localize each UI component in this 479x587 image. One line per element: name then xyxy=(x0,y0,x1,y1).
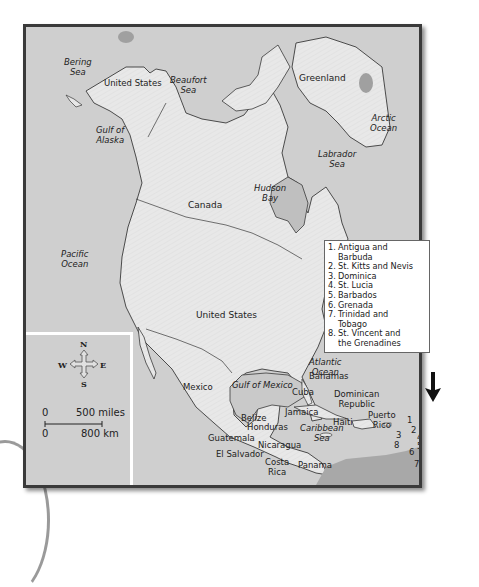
legend-text: Trinidad andTobago xyxy=(338,310,388,329)
compass-west: W xyxy=(58,360,67,370)
label-line: Pacific xyxy=(61,249,89,259)
legend-line: the Grenadines xyxy=(338,338,401,348)
label-hudson-bay: Hudson Bay xyxy=(254,183,286,203)
legend-num: 8. xyxy=(328,329,338,348)
label-line: Sea xyxy=(64,67,92,77)
compass-south: S xyxy=(81,379,87,389)
label-jamaica: Jamaica xyxy=(285,407,318,417)
label-mexico: Mexico xyxy=(183,382,213,392)
legend-line: Antigua and xyxy=(338,242,388,252)
label-line: Ocean xyxy=(370,123,397,133)
land-aleutians xyxy=(66,95,82,107)
label-arctic-ocean: Arctic Ocean xyxy=(370,113,397,133)
island-number-3: 3 xyxy=(396,430,401,440)
legend-line: Trinidad and xyxy=(338,309,388,319)
label-pacific-ocean: Pacific Ocean xyxy=(61,249,89,269)
island-number-7: 7 xyxy=(414,459,419,469)
label-line: Hudson xyxy=(254,183,286,193)
compass-east: E xyxy=(100,360,106,370)
island-number-2: 2 xyxy=(411,425,416,435)
land-arctic-blob xyxy=(359,73,373,93)
label-line: Gulf of xyxy=(96,125,124,135)
scale-km-zero: 0 xyxy=(42,428,48,439)
label-beaufort-sea: Beaufort Sea xyxy=(170,75,207,95)
label-labrador-sea: Labrador Sea xyxy=(318,149,356,169)
label-line: Dominican xyxy=(334,389,379,399)
label-line: Puerto xyxy=(368,410,396,420)
label-line: Arctic xyxy=(370,113,397,123)
label-dominican-republic: Dominican Republic xyxy=(334,389,379,409)
label-line: Bay xyxy=(254,193,286,203)
legend-text: Antigua andBarbuda xyxy=(338,243,388,262)
label-cuba: Cuba xyxy=(292,387,314,397)
label-line: Atlantic xyxy=(309,357,341,367)
legend-line: St. Vincent and xyxy=(338,328,400,338)
island-number-6: 6 xyxy=(409,447,414,457)
label-honduras: Honduras xyxy=(247,422,288,432)
label-line: Republic xyxy=(334,399,379,409)
label-gulf-of-mexico: Gulf of Mexico xyxy=(232,380,293,390)
label-caribbean-sea: Caribbean Sea xyxy=(300,423,344,443)
label-line: Sea xyxy=(300,433,344,443)
island-legend: 1.Antigua andBarbuda 2.St. Kitts and Nev… xyxy=(324,240,430,353)
legend-item: 7.Trinidad andTobago xyxy=(328,310,426,329)
legend-line: Barbuda xyxy=(338,252,373,262)
island-number-1: 1 xyxy=(407,415,412,425)
label-nicaragua: Nicaragua xyxy=(258,440,301,450)
label-line: Rico xyxy=(368,420,396,430)
label-costa-rica: Costa Rica xyxy=(265,457,289,477)
label-line: Alaska xyxy=(96,135,124,145)
label-greenland: Greenland xyxy=(299,73,346,83)
land-arctic-blob-2 xyxy=(118,31,134,43)
island-number-8: 8 xyxy=(394,440,399,450)
label-line: Rica xyxy=(265,467,289,477)
label-canada: Canada xyxy=(188,200,222,210)
label-line: Labrador xyxy=(318,149,356,159)
label-guatemala: Guatemala xyxy=(208,433,255,443)
scale-km-label: 800 km xyxy=(81,428,119,439)
label-gulf-of-alaska: Gulf of Alaska xyxy=(96,125,124,145)
legend-item: 8.St. Vincent andthe Grenadines xyxy=(328,329,426,348)
label-bering-sea: Bering Sea xyxy=(64,57,92,77)
compass-north: N xyxy=(80,339,87,349)
legend-num: 7. xyxy=(328,310,338,329)
scale-miles-zero: 0 xyxy=(42,407,48,418)
label-el-salvador: El Salvador xyxy=(216,449,264,459)
label-line: Caribbean xyxy=(300,423,344,433)
legend-text: St. Vincent andthe Grenadines xyxy=(338,329,401,348)
island-number-5: 5 xyxy=(417,441,422,451)
label-united-states: United States xyxy=(196,310,257,320)
land-arctic-islands xyxy=(222,45,290,111)
legend-item: 1.Antigua andBarbuda xyxy=(328,243,426,262)
label-line: Costa xyxy=(265,457,289,467)
scale-miles-label: 500 miles xyxy=(76,407,125,418)
label-panama: Panama xyxy=(298,460,332,470)
label-line: Sea xyxy=(318,159,356,169)
arrow-down-icon xyxy=(424,372,442,402)
legend-line: Tobago xyxy=(338,319,367,329)
label-line: Bering xyxy=(64,57,92,67)
label-alaska-us: United States xyxy=(104,78,162,88)
label-line: Beaufort xyxy=(170,75,207,85)
scale-bar xyxy=(44,420,106,428)
label-bahamas: Bahamas xyxy=(309,371,349,381)
legend-num: 1. xyxy=(328,243,338,262)
label-line: Ocean xyxy=(61,259,89,269)
label-line: Sea xyxy=(170,85,207,95)
map-inset-compass-scale: N S E W 0 500 miles 0 800 km xyxy=(26,332,133,485)
label-puerto-rico: Puerto Rico xyxy=(368,410,396,430)
compass-rose-icon xyxy=(69,349,99,379)
